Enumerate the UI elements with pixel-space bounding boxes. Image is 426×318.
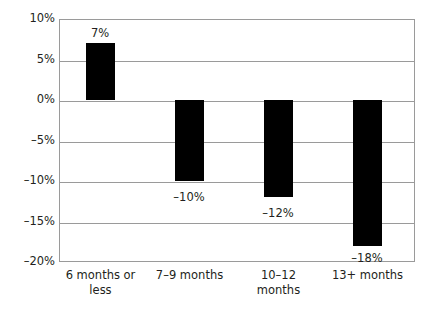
y-tick-label: 5% xyxy=(3,54,55,66)
value-label-13-plus-months: –18% xyxy=(351,253,382,265)
y-tick-label: –20% xyxy=(3,256,55,268)
x-axis: 6 months or less 7–9 months 10–12 months… xyxy=(59,268,415,316)
y-tick-label: 10% xyxy=(3,13,55,25)
y-tick-label: –15% xyxy=(3,216,55,228)
value-label-6-months-or-less: 7% xyxy=(91,28,109,40)
y-tick-label: –10% xyxy=(3,175,55,187)
bar-chart: 10% 5% 0% –5% –10% –15% –20% 7% –10% –12… xyxy=(0,0,426,318)
gridline-neg5pct xyxy=(60,142,414,143)
value-label-7-9-months: –10% xyxy=(173,192,204,204)
value-label-10-12-months: –12% xyxy=(262,208,293,220)
gridline-5pct xyxy=(60,61,414,62)
gridline-0pct xyxy=(60,101,414,102)
gridline-neg10pct xyxy=(60,182,414,183)
gridline-neg15pct xyxy=(60,223,414,224)
plot-area xyxy=(59,19,415,262)
y-tick-label: –5% xyxy=(3,135,55,147)
y-tick-label: 0% xyxy=(3,94,55,106)
x-category-label: 13+ months xyxy=(313,268,423,283)
